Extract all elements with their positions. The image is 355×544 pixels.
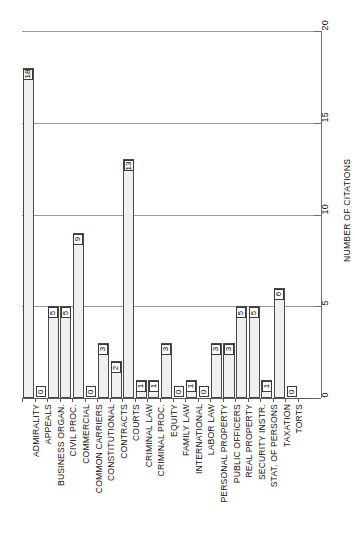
bar-group: 1 bbox=[147, 31, 160, 398]
bar-value-text: 0 bbox=[175, 389, 183, 393]
category-label: COMMERCIAL bbox=[82, 404, 91, 464]
category-tick bbox=[235, 398, 236, 402]
bar bbox=[23, 68, 34, 398]
bar-value-label: 5 bbox=[48, 307, 58, 318]
bar bbox=[274, 288, 285, 398]
bar-value-text: 1 bbox=[150, 384, 158, 388]
bar-value-text: 18 bbox=[24, 70, 32, 79]
category-label: COMMON CARRIERS bbox=[95, 404, 104, 493]
bar-value-label: 5 bbox=[249, 307, 259, 318]
bar-value-label: 0 bbox=[36, 386, 46, 397]
bar-value-text: 1 bbox=[263, 384, 271, 388]
value-axis-tick bbox=[314, 31, 321, 32]
bar-value-text: 1 bbox=[137, 384, 145, 388]
bar bbox=[48, 306, 59, 398]
bar-group: 9 bbox=[72, 31, 85, 398]
bar-group: 5 bbox=[60, 31, 73, 398]
bar-group: 0 bbox=[198, 31, 211, 398]
bar-value-text: 3 bbox=[162, 347, 170, 351]
category-label: APPEALS bbox=[44, 404, 53, 444]
bar-group: 0 bbox=[35, 31, 48, 398]
category-tick bbox=[147, 398, 148, 402]
bar-value-label: 5 bbox=[236, 307, 246, 318]
bar-group: 5 bbox=[47, 31, 60, 398]
category-label: REAL PROPERTY bbox=[245, 404, 254, 478]
category-tick bbox=[248, 398, 249, 402]
bar-value-text: 5 bbox=[49, 311, 57, 315]
category-tick bbox=[47, 398, 48, 402]
category-tick bbox=[198, 398, 199, 402]
bar-value-label: 0 bbox=[174, 386, 184, 397]
category-label: FAMILY LAW bbox=[182, 404, 191, 456]
value-axis-tick-label: 0 bbox=[321, 392, 330, 397]
category-label: INTERNATIONAL bbox=[195, 404, 204, 474]
category-label: TAXATION bbox=[283, 404, 292, 447]
bar-value-text: 3 bbox=[225, 347, 233, 351]
bar-group: 0 bbox=[173, 31, 186, 398]
category-tick bbox=[35, 398, 36, 402]
bar-value-label: 3 bbox=[161, 344, 171, 355]
bar-group: 0 bbox=[285, 31, 298, 398]
value-axis-tick-label: 15 bbox=[321, 112, 330, 122]
bar-value-text: 5 bbox=[250, 311, 258, 315]
bar-group: 6 bbox=[273, 31, 286, 398]
bar-value-label: 1 bbox=[186, 381, 196, 392]
category-tick bbox=[72, 398, 73, 402]
bar-value-text: 1 bbox=[187, 384, 195, 388]
bar-group: 5 bbox=[235, 31, 248, 398]
category-label: PUBLIC OFFICERS bbox=[233, 404, 242, 483]
bar-group: 1 bbox=[185, 31, 198, 398]
bar-value-label: 2 bbox=[111, 362, 121, 373]
bar bbox=[60, 306, 71, 398]
bar-group: 1 bbox=[260, 31, 273, 398]
bar-value-label: 0 bbox=[287, 386, 297, 397]
bar-value-label: 1 bbox=[149, 381, 159, 392]
category-label: BUSINESS ORGAN. bbox=[57, 404, 66, 486]
bar-value-label: 1 bbox=[262, 381, 272, 392]
value-axis-tick bbox=[314, 215, 321, 216]
category-label: CONTRACTS bbox=[120, 404, 129, 459]
bar bbox=[249, 306, 260, 398]
category-tick bbox=[60, 398, 61, 402]
bar-value-label: 3 bbox=[98, 344, 108, 355]
category-label: COURTS bbox=[132, 404, 141, 441]
bar-value-text: 0 bbox=[288, 389, 296, 393]
category-tick bbox=[285, 398, 286, 402]
category-tick bbox=[22, 398, 23, 402]
category-tick bbox=[260, 398, 261, 402]
bar-value-text: 13 bbox=[125, 162, 133, 171]
category-tick bbox=[85, 398, 86, 402]
value-axis-tick-label: 10 bbox=[321, 204, 330, 214]
bar-value-text: 5 bbox=[62, 311, 70, 315]
bar-value-text: 5 bbox=[237, 311, 245, 315]
bar-group: 13 bbox=[122, 31, 135, 398]
category-label: PERSONAL PROPERTY bbox=[220, 404, 229, 503]
value-axis-spine bbox=[321, 31, 322, 398]
category-label: CONSTITUTIONAL bbox=[107, 404, 116, 481]
bar-chart-figure: 180559032131130103355160 ADMIRALITYAPPEA… bbox=[0, 0, 355, 544]
bar-value-label: 3 bbox=[211, 344, 221, 355]
bar-value-text: 6 bbox=[275, 292, 283, 296]
bar bbox=[73, 233, 84, 398]
bar-value-label: 0 bbox=[86, 386, 96, 397]
bar bbox=[236, 306, 247, 398]
category-label: CIVIL PROC. bbox=[69, 404, 78, 456]
bar-value-label: 9 bbox=[73, 234, 83, 245]
bar-value-text: 3 bbox=[99, 347, 107, 351]
category-tick-marks bbox=[22, 398, 298, 402]
value-axis-tick bbox=[314, 306, 321, 307]
bar-group: 3 bbox=[160, 31, 173, 398]
category-tick bbox=[185, 398, 186, 402]
value-axis-tick-label: 20 bbox=[321, 20, 330, 30]
category-label: STAT. OF PERSONS bbox=[270, 404, 279, 487]
category-label: EQUITY bbox=[170, 404, 179, 437]
bar-value-label: 3 bbox=[224, 344, 234, 355]
bar-value-text: 3 bbox=[212, 347, 220, 351]
bar bbox=[123, 159, 134, 398]
bar-value-label: 13 bbox=[124, 160, 134, 171]
bar-group: 2 bbox=[110, 31, 123, 398]
bar-group: 5 bbox=[248, 31, 261, 398]
category-label: CRIMINAL LAW bbox=[145, 404, 154, 467]
category-label: LABOR LAW bbox=[207, 404, 216, 455]
bar-group: 18 bbox=[22, 31, 35, 398]
